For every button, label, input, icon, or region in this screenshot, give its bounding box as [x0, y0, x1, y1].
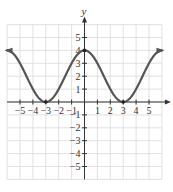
x-axis-label: x: [172, 95, 173, 107]
svg-text:2: 2: [108, 105, 113, 116]
svg-text:−5: −5: [15, 105, 26, 116]
svg-text:1: 1: [95, 105, 100, 116]
function-graph: −5−4−3−2−112345−5−4−3−2−112345 x y: [0, 0, 173, 192]
svg-text:5: 5: [147, 105, 152, 116]
svg-text:5: 5: [76, 32, 81, 43]
svg-text:−3: −3: [70, 135, 81, 146]
svg-text:−4: −4: [70, 148, 81, 159]
svg-text:−4: −4: [28, 105, 39, 116]
svg-text:−1: −1: [70, 109, 81, 120]
axes: [7, 17, 171, 180]
y-axis-label: y: [81, 5, 87, 17]
svg-text:2: 2: [76, 71, 81, 82]
svg-text:−5: −5: [70, 161, 81, 172]
svg-text:−2: −2: [53, 105, 64, 116]
svg-text:−3: −3: [40, 105, 51, 116]
svg-text:3: 3: [121, 105, 126, 116]
svg-text:1: 1: [76, 84, 81, 95]
svg-text:−2: −2: [70, 122, 81, 133]
svg-text:3: 3: [76, 58, 81, 69]
svg-text:4: 4: [134, 105, 139, 116]
